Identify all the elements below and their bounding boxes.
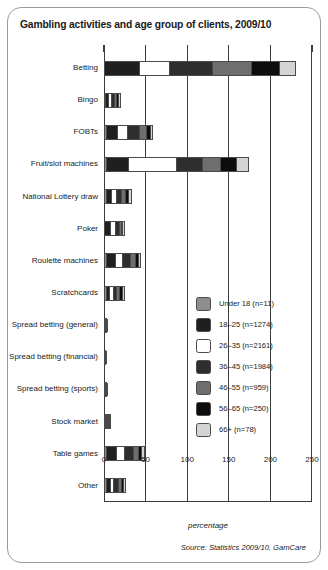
bar-segment	[107, 158, 129, 171]
bar-segment	[124, 479, 125, 492]
legend-swatch	[196, 297, 211, 311]
category-label: Bingo	[78, 84, 104, 116]
legend-label: 66+ (n=78)	[219, 425, 256, 434]
stacked-bar	[104, 253, 141, 268]
legend-item: 18–25 (n=1274)	[196, 314, 308, 335]
bar-segment	[221, 158, 237, 171]
bar-segment	[151, 126, 152, 139]
stacked-bar	[104, 189, 132, 204]
legend-label: 56–65 (n=250)	[219, 404, 269, 413]
bar-segment	[107, 319, 108, 332]
bar-segment	[177, 158, 202, 171]
category-label: National Lottery draw	[22, 181, 104, 213]
bar-segment	[106, 351, 107, 364]
legend-label: 36–45 (n=1984)	[219, 362, 273, 371]
category-label: Spread betting (financial)	[9, 341, 104, 373]
legend-swatch	[196, 339, 211, 353]
stacked-bar	[104, 286, 125, 301]
x-axis-tick-label: 100	[181, 455, 194, 464]
bar-segment	[125, 447, 133, 460]
figure-container: Gambling activities and age group of cli…	[0, 0, 328, 570]
x-axis-tick-label: 250	[305, 455, 318, 464]
legend-item: 36–45 (n=1984)	[196, 356, 308, 377]
bar-segment	[107, 447, 117, 460]
bar-segment	[107, 254, 117, 267]
stacked-bar	[104, 93, 121, 108]
bar-segment	[129, 190, 131, 203]
x-axis-tick	[228, 45, 229, 52]
category-label: Fruit/slot machines	[31, 148, 104, 180]
legend-swatch	[196, 381, 211, 395]
bar-segment	[170, 62, 213, 75]
gridline	[187, 52, 188, 502]
category-label: FOBTs	[74, 116, 104, 148]
legend-swatch	[196, 360, 211, 374]
legend-label: 26–35 (n=2161)	[219, 341, 273, 350]
bar-segment	[105, 62, 140, 75]
x-axis-tick-label: 0	[102, 455, 106, 464]
bar-segment	[128, 126, 141, 139]
bar-segment	[110, 415, 111, 428]
legend-item: 56–65 (n=250)	[196, 398, 308, 419]
source-note: Source: Statistics 2009/10, GamCare	[181, 543, 306, 552]
bar-segment	[140, 62, 171, 75]
category-label: Stock market	[51, 406, 104, 438]
category-label: Roulette machines	[32, 245, 104, 277]
bar-segment	[107, 383, 108, 396]
stacked-bar	[104, 382, 107, 397]
legend-label: 46–55 (n=959)	[219, 383, 269, 392]
legend-item: 26–35 (n=2161)	[196, 335, 308, 356]
stacked-bar	[104, 157, 249, 172]
gridline	[145, 52, 146, 502]
category-label: Scratchcards	[51, 277, 104, 309]
bar-segment	[116, 254, 123, 267]
legend-item: 46–55 (n=959)	[196, 377, 308, 398]
stacked-bar	[104, 350, 106, 365]
x-axis-tick	[187, 45, 188, 52]
x-axis-tick-label: 200	[264, 455, 277, 464]
bar-segment	[280, 62, 295, 75]
bar-segment	[129, 158, 177, 171]
legend-swatch	[196, 402, 211, 416]
bar-segment	[213, 62, 252, 75]
bar-segment	[123, 287, 124, 300]
bar-segment	[203, 158, 221, 171]
bar-segment	[123, 222, 124, 235]
stacked-bar	[104, 221, 125, 236]
legend-swatch	[196, 423, 211, 437]
category-label: Betting	[73, 52, 104, 84]
x-axis-tick-label: 150	[222, 455, 235, 464]
bar-segment	[123, 254, 131, 267]
category-label: Other	[78, 470, 104, 502]
bar-segment	[237, 158, 248, 171]
stacked-bar	[104, 318, 107, 333]
stacked-bar	[104, 478, 126, 493]
category-label: Table games	[53, 438, 104, 470]
legend-swatch	[196, 318, 211, 332]
x-axis-tick-label: 50	[141, 455, 150, 464]
stacked-bar	[104, 61, 296, 76]
bar-segment	[107, 126, 118, 139]
x-axis-label: percentage	[104, 521, 312, 530]
bar-segment	[119, 94, 120, 107]
category-label: Poker	[77, 213, 104, 245]
legend-label: 18–25 (n=1274)	[219, 320, 273, 329]
legend-item: 66+ (n=78)	[196, 419, 308, 440]
chart-legend: Under 18 (n=11)18–25 (n=1274)26–35 (n=21…	[196, 293, 308, 440]
bar-segment	[139, 254, 140, 267]
bar-segment	[252, 62, 280, 75]
stacked-bar	[104, 414, 111, 429]
bar-segment	[118, 126, 127, 139]
stacked-bar	[104, 446, 145, 461]
category-label: Spread betting (general)	[12, 309, 104, 341]
x-axis-tick	[270, 45, 271, 52]
stacked-bar	[104, 125, 153, 140]
x-axis-tick	[311, 45, 312, 52]
legend-item: Under 18 (n=11)	[196, 293, 308, 314]
legend-label: Under 18 (n=11)	[219, 299, 274, 308]
bar-segment	[117, 447, 125, 460]
category-label: Spread betting (sports)	[17, 373, 104, 405]
x-axis-tick	[103, 45, 104, 52]
chart-title: Gambling activities and age group of cli…	[20, 19, 310, 31]
x-axis-tick	[145, 45, 146, 52]
